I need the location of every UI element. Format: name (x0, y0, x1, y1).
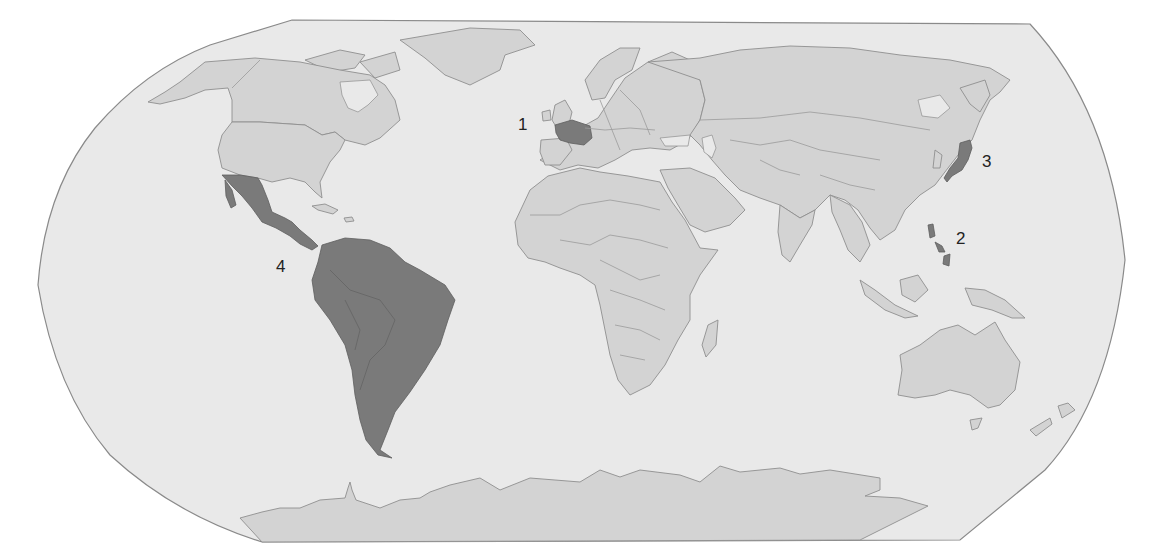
marker-label-4: 4 (276, 258, 285, 275)
world-map (0, 0, 1156, 556)
marker-label-2: 2 (956, 230, 965, 247)
marker-label-1: 1 (518, 116, 527, 133)
hispaniola (344, 217, 354, 222)
marker-label-3: 3 (982, 153, 991, 170)
